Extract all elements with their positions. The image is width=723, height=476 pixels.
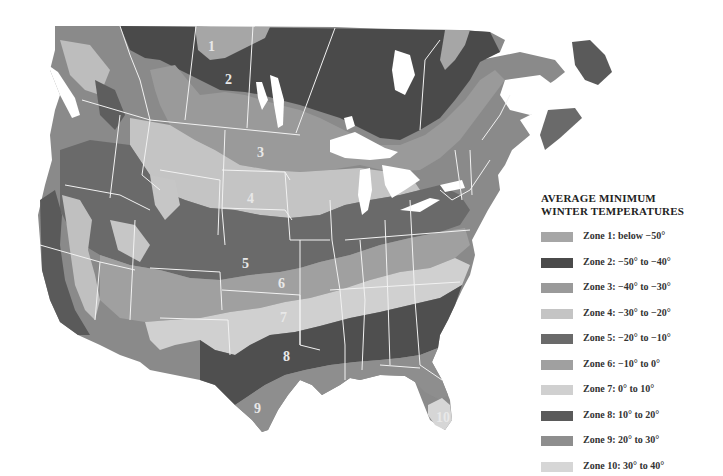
legend-item-zone-7: Zone 7: 0° to 10° — [541, 385, 723, 411]
newfoundland — [572, 40, 612, 85]
zone-label-4: 4 — [247, 191, 254, 206]
legend-label: Zone 6: −10° to 0° — [583, 358, 660, 369]
legend-swatch — [541, 283, 573, 293]
zone-label-10: 10 — [436, 410, 450, 425]
legend-label: Zone 4: −30° to −20° — [583, 307, 671, 318]
legend-swatch — [541, 411, 573, 421]
legend-label: Zone 9: 20° to 30° — [583, 434, 659, 445]
legend-item-zone-3: Zone 3: −40° to −30° — [541, 283, 723, 309]
legend-label: Zone 5: −20° to −10° — [583, 332, 671, 343]
legend-swatch — [541, 258, 573, 268]
zone-label-6: 6 — [278, 276, 285, 291]
legend-swatch — [541, 462, 573, 472]
legend-label: Zone 7: 0° to 10° — [583, 383, 654, 394]
legend-label: Zone 2: −50° to −40° — [583, 256, 671, 267]
legend: AVERAGE MINIMUM WINTER TEMPERATURES Zone… — [541, 192, 723, 476]
legend-swatch — [541, 232, 573, 242]
legend-swatch — [541, 309, 573, 319]
legend-item-zone-8: Zone 8: 10° to 20° — [541, 411, 723, 437]
legend-swatch — [541, 360, 573, 370]
legend-item-zone-1: Zone 1: below −50° — [541, 232, 723, 258]
zone-label-2: 2 — [225, 72, 232, 87]
legend-item-zone-6: Zone 6: −10° to 0° — [541, 360, 723, 386]
zone-label-5: 5 — [242, 256, 249, 271]
legend-label: Zone 1: below −50° — [583, 230, 665, 241]
legend-item-zone-5: Zone 5: −20° to −10° — [541, 334, 723, 360]
legend-swatch — [541, 385, 573, 395]
legend-swatch — [541, 334, 573, 344]
zone-label-3: 3 — [257, 145, 264, 160]
legend-label: Zone 3: −40° to −30° — [583, 281, 671, 292]
legend-label: Zone 8: 10° to 20° — [583, 409, 659, 420]
nova-scotia — [540, 108, 582, 150]
legend-title-line-1: AVERAGE MINIMUM — [541, 192, 723, 205]
legend-item-zone-2: Zone 2: −50° to −40° — [541, 258, 723, 284]
legend-label: Zone 10: 30° to 40° — [583, 460, 664, 471]
legend-item-zone-9: Zone 9: 20° to 30° — [541, 436, 723, 462]
legend-swatch — [541, 436, 573, 446]
zone-label-7: 7 — [280, 310, 287, 325]
zone-label-9: 9 — [254, 401, 261, 416]
legend-title-line-2: WINTER TEMPERATURES — [541, 205, 723, 218]
legend-item-zone-4: Zone 4: −30° to −20° — [541, 309, 723, 335]
zone-label-8: 8 — [283, 349, 290, 364]
legend-item-zone-10: Zone 10: 30° to 40° — [541, 462, 723, 476]
legend-title: AVERAGE MINIMUM WINTER TEMPERATURES — [541, 192, 723, 218]
zone-label-1: 1 — [208, 39, 215, 54]
